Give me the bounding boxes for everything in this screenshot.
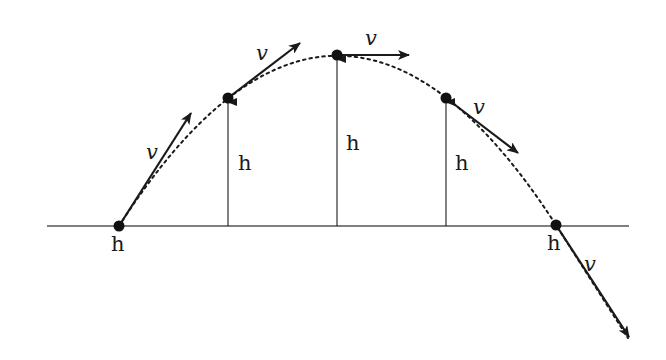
- velocity-arrow-launch: [119, 113, 191, 226]
- height-lines: [228, 59, 446, 226]
- height-label-apex: h: [346, 131, 360, 155]
- height-label-falling: h: [455, 151, 469, 175]
- velocity-label-falling: v: [473, 95, 485, 119]
- projectile-diagram: vhvhvhvhvh: [0, 0, 666, 360]
- height-label-rising: h: [238, 151, 252, 175]
- velocity-vectors: [119, 43, 629, 337]
- velocity-label-landing: v: [584, 252, 596, 276]
- point-apex: [332, 50, 343, 61]
- height-label-launch: h: [111, 232, 125, 256]
- velocity-label-launch: v: [146, 140, 158, 164]
- velocity-label-rising: v: [256, 41, 268, 65]
- trajectory-curve: [119, 56, 628, 338]
- height-label-landing: h: [547, 231, 561, 255]
- point-launch: [114, 221, 125, 232]
- point-rising: [223, 93, 234, 104]
- point-falling: [441, 93, 452, 104]
- point-landing: [551, 220, 562, 231]
- velocity-label-apex: v: [365, 26, 377, 50]
- velocity-arrow-landing: [556, 225, 629, 337]
- labels: vhvhvhvhvh: [111, 26, 596, 276]
